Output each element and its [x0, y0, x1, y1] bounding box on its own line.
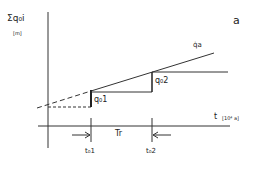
x-axis-label: t: [214, 113, 217, 121]
corner-label: a: [233, 15, 240, 26]
curve-label: q̇a: [193, 42, 202, 49]
x-axis-unit: [10⁴ a]: [222, 116, 239, 121]
time-mark-t01: t₀1: [85, 148, 95, 155]
dashed-trend: [37, 91, 91, 108]
step-label-q02: q₀2: [155, 77, 168, 85]
diagram-canvas: [0, 0, 256, 172]
y-axis-label: Σq₀i: [7, 14, 25, 23]
y-axis-unit: [m]: [13, 31, 22, 36]
interval-label: Tr: [115, 130, 122, 138]
time-mark-t02: t₀2: [146, 148, 156, 155]
step-label-q01: q₀1: [94, 96, 107, 104]
